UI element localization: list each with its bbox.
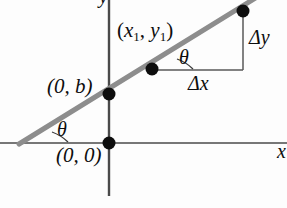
label-delta-y: Δy — [249, 27, 270, 47]
label-axis-x: x — [277, 141, 286, 161]
label-theta-triangle: θ — [179, 47, 189, 67]
point-y-intercept — [103, 88, 116, 101]
point-origin — [103, 137, 116, 150]
point-x2-y2 — [237, 5, 250, 18]
label-y-intercept: (0, b) — [47, 76, 93, 97]
label-delta-x: Δx — [188, 73, 209, 93]
label-origin: (0, 0) — [56, 145, 102, 166]
slope-diagram: (x1, y1) (0, b) (0, 0) Δy Δx θ θ x y — [0, 0, 287, 208]
label-axis-y: y — [99, 0, 108, 6]
label-point-x1-y1: (x1, y1) — [117, 20, 173, 43]
point-x1-y1 — [146, 63, 159, 76]
angle-arcs-group — [52, 59, 193, 142]
label-theta-origin: θ — [57, 119, 67, 139]
